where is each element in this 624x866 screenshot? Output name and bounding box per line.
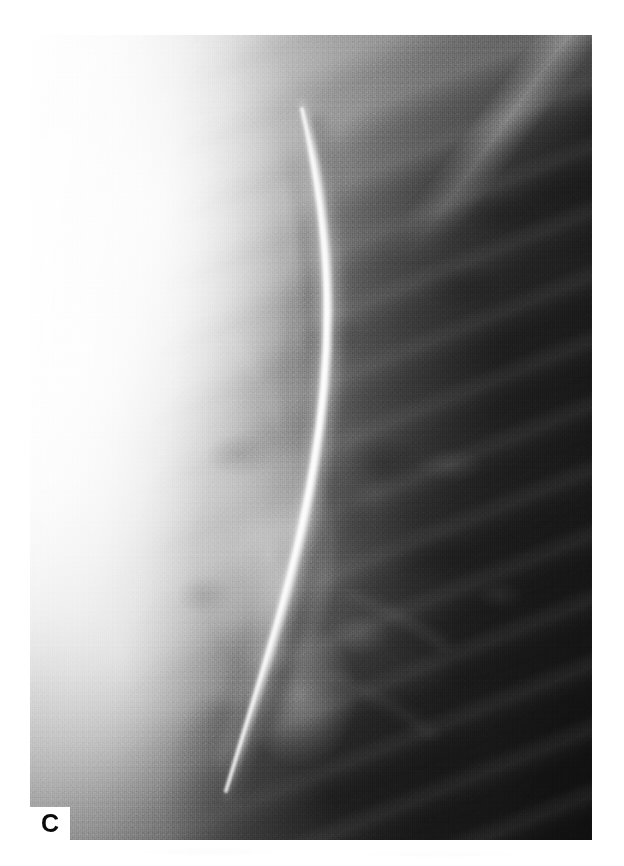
- figure-panel: C: [0, 0, 624, 866]
- film-grain-texture: [30, 35, 592, 840]
- halftone-scan-texture: [30, 35, 592, 840]
- radiograph-image: C: [30, 35, 592, 840]
- lung-field-lucency: [30, 35, 592, 840]
- page-speckle-bottom: [60, 842, 560, 866]
- film-vertical-shading: [30, 35, 592, 840]
- soft-tissue-opacity: [30, 35, 592, 840]
- film-exposure-gradient: [30, 35, 592, 840]
- pleural-line-overlay: [30, 35, 592, 840]
- parenchymal-mottling: [30, 35, 592, 840]
- shoulder-skin-edge: [30, 35, 592, 840]
- rib-shadows: [30, 35, 592, 840]
- panel-label: C: [30, 807, 70, 840]
- hilar-opacity: [30, 35, 592, 840]
